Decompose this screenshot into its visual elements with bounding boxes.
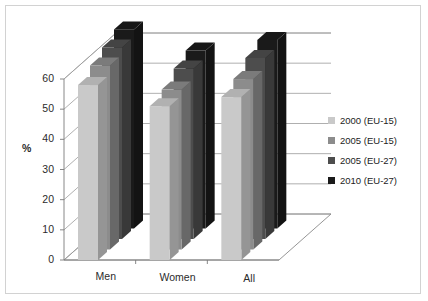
y-axis-tick-label: 50 — [32, 102, 54, 114]
x-axis-category-label: Women — [148, 271, 208, 283]
legend-item[interactable]: 2005 (EU-27) — [328, 150, 397, 170]
y-axis-tick-label: 10 — [32, 223, 54, 235]
legend-label: 2005 (EU-15) — [340, 135, 397, 146]
y-axis-tick-label: 20 — [32, 193, 54, 205]
bar-side-face — [170, 98, 179, 260]
legend-item[interactable]: 2000 (EU-15) — [328, 110, 397, 130]
y-axis-title: % — [22, 142, 31, 154]
legend-item[interactable]: 2010 (EU-27) — [328, 170, 397, 190]
x-axis-category-label: All — [219, 272, 279, 284]
y-axis-tick-label: 30 — [32, 163, 54, 175]
bar-side-face — [134, 21, 143, 228]
legend-swatch-icon — [328, 177, 335, 184]
y-axis-tick-label: 60 — [32, 72, 54, 84]
bar-side-face — [110, 57, 119, 249]
bar-side-face — [122, 39, 131, 239]
bar-side-face — [253, 71, 262, 249]
y-axis-tick-label: 0 — [32, 253, 54, 265]
legend-label: 2005 (EU-27) — [340, 155, 397, 166]
x-axis-category-label: Men — [76, 270, 136, 282]
bar-front-face — [78, 85, 98, 260]
y-axis-tick-label: 40 — [32, 132, 54, 144]
bar-men-series-1 — [78, 77, 107, 260]
bar-front-face — [150, 106, 170, 260]
bar-side-face — [241, 89, 250, 260]
chart-legend: 2000 (EU-15)2005 (EU-15)2005 (EU-27)2010… — [328, 110, 397, 190]
bar-side-face — [206, 43, 215, 229]
legend-swatch-icon — [328, 137, 335, 144]
bar-all-series-1 — [221, 89, 250, 260]
legend-label: 2010 (EU-27) — [340, 175, 397, 186]
bar-side-face — [277, 32, 286, 229]
chart-frame: % 2000 (EU-15)2005 (EU-15)2005 (EU-27)20… — [5, 5, 421, 294]
legend-label: 2000 (EU-15) — [340, 115, 397, 126]
bar-side-face — [182, 82, 191, 250]
bar-front-face — [221, 97, 241, 260]
bar-side-face — [265, 50, 274, 239]
legend-item[interactable]: 2005 (EU-15) — [328, 130, 397, 150]
bar-women-series-1 — [150, 98, 179, 260]
bar-side-face — [194, 61, 203, 239]
legend-swatch-icon — [328, 117, 335, 124]
bar-side-face — [98, 77, 107, 260]
legend-swatch-icon — [328, 157, 335, 164]
